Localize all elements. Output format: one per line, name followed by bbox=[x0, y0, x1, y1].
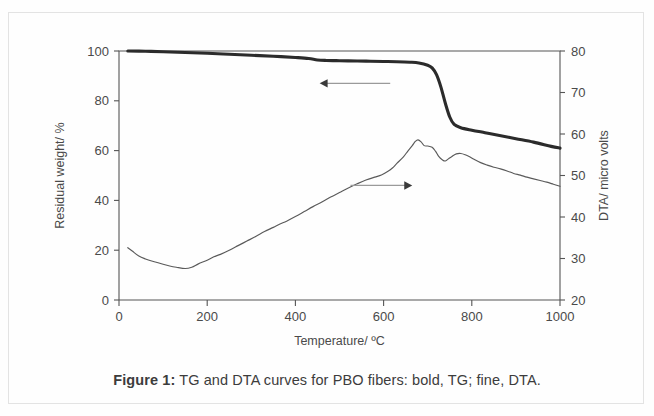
x-axis-tick-label: 1000 bbox=[546, 309, 575, 324]
y-axis-tick-label: 80 bbox=[95, 93, 109, 108]
x-axis-tick-label: 600 bbox=[373, 309, 395, 324]
series-dta-curve bbox=[128, 140, 560, 269]
figure-area: 0204060801002030405060708002004006008001… bbox=[0, 0, 654, 366]
x-axis-tick-label: 800 bbox=[461, 309, 483, 324]
y2-axis-tick-label: 20 bbox=[571, 293, 585, 308]
figure-page: 0204060801002030405060708002004006008001… bbox=[0, 0, 654, 416]
y2-axis-tick-label: 80 bbox=[571, 44, 585, 59]
figure-caption: Figure 1: TG and DTA curves for PBO fibe… bbox=[0, 372, 654, 388]
figure-caption-text: TG and DTA curves for PBO fibers: bold, … bbox=[175, 372, 540, 388]
tg-arrow-head bbox=[320, 79, 328, 87]
x-axis-tick-label: 400 bbox=[285, 309, 307, 324]
plot-frame bbox=[119, 51, 560, 300]
x-axis-tick-label: 200 bbox=[196, 309, 218, 324]
y-axis-tick-label: 40 bbox=[95, 193, 109, 208]
series-tg-curve bbox=[128, 51, 560, 148]
y-axis-tick-label: 0 bbox=[102, 293, 109, 308]
dta-arrow-head bbox=[404, 181, 412, 189]
y2-axis-tick-label: 40 bbox=[571, 210, 585, 225]
y2-axis-tick-label: 70 bbox=[571, 85, 585, 100]
y-axis-title: Residual weight/ % bbox=[53, 122, 67, 228]
y2-axis-tick-label: 50 bbox=[571, 168, 585, 183]
figure-caption-label: Figure 1: bbox=[113, 372, 175, 388]
x-axis-title: Temperature/ ºC bbox=[294, 334, 385, 348]
x-axis-tick-label: 0 bbox=[115, 309, 122, 324]
tg-dta-chart: 0204060801002030405060708002004006008001… bbox=[0, 0, 654, 366]
y-axis-tick-label: 60 bbox=[95, 143, 109, 158]
y2-axis-title: DTA/ micro volts bbox=[597, 130, 611, 221]
y2-axis-tick-label: 60 bbox=[571, 127, 585, 142]
y-axis-tick-label: 100 bbox=[87, 44, 109, 59]
y-axis-tick-label: 20 bbox=[95, 243, 109, 258]
y2-axis-tick-label: 30 bbox=[571, 251, 585, 266]
